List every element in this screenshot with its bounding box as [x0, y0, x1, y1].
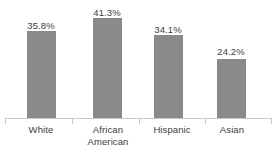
- category-label-line1: White: [7, 124, 75, 136]
- bar-value-label-hispanic: 34.1%: [140, 24, 196, 35]
- bar-asian: [217, 59, 246, 118]
- category-label-line1: Hispanic: [138, 124, 206, 136]
- category-label-hispanic: Hispanic: [138, 124, 206, 136]
- bar-value-label-african-american: 41.3%: [79, 7, 135, 18]
- axis-tick-end: [271, 119, 272, 124]
- plot-area: 35.8% 41.3% 34.1% 24.2%: [0, 0, 280, 119]
- category-label-line2: American: [74, 136, 142, 148]
- bar-value-label-white: 35.8%: [13, 20, 69, 31]
- category-label-line1: Asian: [198, 124, 266, 136]
- axis-tick-start: [5, 119, 6, 124]
- category-label-line1: African: [74, 124, 142, 136]
- bar-chart: 35.8% 41.3% 34.1% 24.2% White African Am…: [0, 0, 280, 154]
- category-label-white: White: [7, 124, 75, 136]
- category-label-asian: Asian: [198, 124, 266, 136]
- bar-hispanic: [154, 35, 183, 118]
- bar-value-label-asian: 24.2%: [203, 46, 259, 57]
- bar-white: [27, 31, 56, 118]
- bar-african-american: [93, 18, 122, 118]
- category-label-african-american: African American: [74, 124, 142, 147]
